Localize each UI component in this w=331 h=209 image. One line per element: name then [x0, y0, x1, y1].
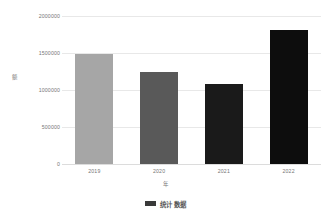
- bar-2021[interactable]: [205, 84, 243, 164]
- x-axis-tick-labels: 2019 2020 2021 2022: [62, 168, 321, 178]
- caption-text: 统计 数据: [160, 200, 186, 209]
- gridline-zero-baseline: [62, 164, 321, 165]
- y-tick-label-2000000: 2000000: [39, 13, 60, 19]
- y-tick-label-1500000: 1500000: [39, 50, 60, 56]
- y-axis-title-char: 额: [9, 74, 19, 80]
- x-tick-label-2022: 2022: [283, 168, 295, 174]
- caption-swatch: [145, 201, 156, 206]
- y-axis-title: 额: [9, 74, 19, 80]
- y-axis-tick-labels: 0 500000 1000000 1500000 2000000: [20, 16, 60, 164]
- x-tick-label-2020: 2020: [153, 168, 165, 174]
- y-tick-label-1000000: 1000000: [39, 87, 60, 93]
- figure-caption: 统计 数据: [0, 200, 331, 209]
- plot-area: [62, 16, 321, 164]
- y-tick-label-0: 0: [57, 161, 60, 167]
- bar-chart-figure: 0 500000 1000000 1500000 2000000 额 2019 …: [0, 0, 331, 209]
- x-axis-title: 年: [0, 180, 331, 188]
- bar-slot-2020: [127, 16, 192, 164]
- bar-slot-2021: [192, 16, 257, 164]
- x-tick-label-2019: 2019: [88, 168, 100, 174]
- y-tick-label-500000: 500000: [42, 124, 60, 130]
- bar-slot-2022: [256, 16, 321, 164]
- bar-2020[interactable]: [140, 72, 178, 164]
- bar-slot-2019: [62, 16, 127, 164]
- bar-2022[interactable]: [270, 30, 308, 164]
- x-tick-label-2021: 2021: [218, 168, 230, 174]
- bar-2019[interactable]: [75, 54, 113, 164]
